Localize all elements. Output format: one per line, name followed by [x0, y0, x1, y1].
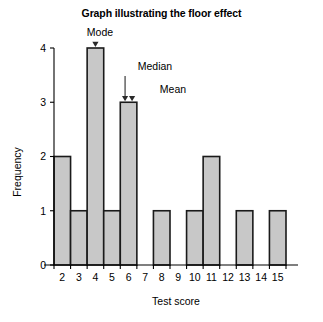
annotation-label-median: Median: [138, 60, 173, 72]
x-axis-ticks: 23456789101112131415: [54, 265, 286, 283]
annotation-arrowhead-median: [122, 96, 128, 101]
x-tick-label-3: 3: [76, 271, 82, 283]
bar-13: [236, 211, 253, 265]
bar-10: [187, 211, 204, 265]
x-tick-label-15: 15: [272, 271, 284, 283]
y-tick-label-3: 3: [40, 96, 46, 108]
chart-plot-area: 01234 23456789101112131415 ModeMedianMea…: [0, 0, 323, 322]
x-tick-label-6: 6: [126, 271, 132, 283]
bar-3: [71, 211, 88, 265]
bar-8: [153, 211, 170, 265]
x-tick-label-9: 9: [175, 271, 181, 283]
chart-figure: Graph illustrating the floor effect 0123…: [0, 0, 323, 322]
bar-5: [104, 211, 121, 265]
bar-2: [54, 157, 71, 266]
x-tick-label-4: 4: [93, 271, 99, 283]
y-tick-label-1: 1: [40, 205, 46, 217]
bar-4: [87, 48, 104, 265]
y-axis-label: Frequency: [11, 146, 23, 196]
x-axis-label: Test score: [152, 295, 200, 307]
x-tick-label-13: 13: [239, 271, 251, 283]
x-tick-label-14: 14: [255, 271, 267, 283]
bars-group: [54, 48, 286, 265]
annotation-arrowhead-mode: [92, 42, 98, 47]
x-tick-label-5: 5: [109, 271, 115, 283]
bar-15: [269, 211, 286, 265]
bar-6: [120, 102, 137, 265]
x-tick-label-2: 2: [59, 271, 65, 283]
annotation-arrowhead-mean: [129, 96, 135, 101]
x-tick-label-7: 7: [142, 271, 148, 283]
bar-11: [203, 157, 220, 266]
y-axis-ticks: 01234: [40, 42, 54, 271]
annotation-label-mode: Mode: [87, 26, 113, 38]
y-tick-label-4: 4: [40, 42, 46, 54]
x-tick-label-12: 12: [222, 271, 234, 283]
annotation-label-mean: Mean: [160, 83, 186, 95]
x-tick-label-8: 8: [159, 271, 165, 283]
y-tick-label-0: 0: [40, 259, 46, 271]
x-tick-label-10: 10: [189, 271, 201, 283]
x-tick-label-11: 11: [206, 271, 217, 283]
y-tick-label-2: 2: [40, 150, 46, 162]
